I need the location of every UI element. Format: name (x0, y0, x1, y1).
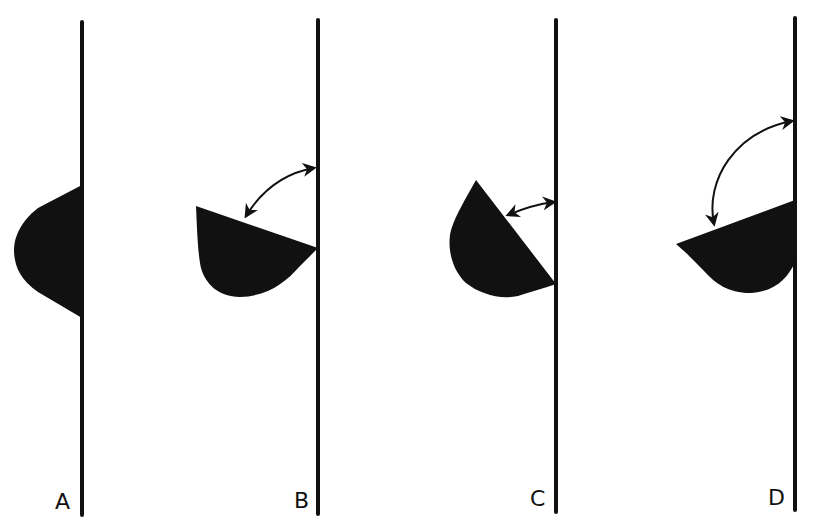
panel-label-a: A (55, 491, 70, 513)
panel-d (676, 18, 795, 510)
angle-arrow-b (246, 168, 314, 216)
panel-label-c: C (530, 488, 545, 510)
half-disc-shape-c (450, 180, 556, 297)
panel-b (196, 20, 318, 514)
panel-label-b: B (294, 490, 309, 512)
half-disc-shape-d (676, 200, 795, 293)
panel-c (450, 20, 556, 512)
half-disc-shape-b (196, 206, 318, 297)
panel-label-d: D (768, 487, 785, 509)
angle-arrow-c (508, 202, 554, 215)
angle-diagram (0, 0, 813, 525)
panel-a (14, 22, 82, 515)
half-disc-shape-a (14, 185, 82, 318)
